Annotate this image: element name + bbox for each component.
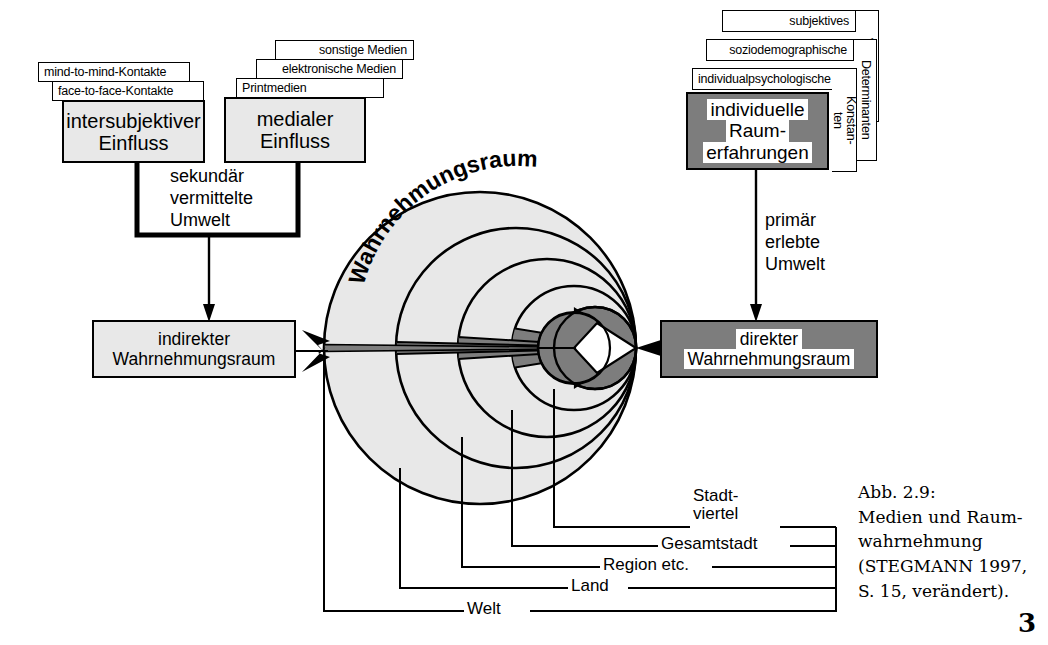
figure-caption: Abb. 2.9: Medien und Raum- wahrnehmung (… [858, 480, 1043, 603]
bracket-label-stadtviertel: Stadt- viertel [690, 487, 741, 524]
bracket-label-welt: Welt [464, 600, 504, 619]
label-sekundaer-vermittelte-umwelt: sekundär vermittelte Umwelt [170, 166, 295, 232]
flow-line-1: sekundär [170, 166, 295, 188]
box-direkter-wahrnehmungsraum[interactable]: direkter Wahrnehmungsraum [660, 320, 878, 378]
bracket-label-text: Gesamtstadt [661, 534, 757, 553]
bracket-label-text: Welt [467, 599, 501, 618]
stack-card-label: mind-to-mind-Kontakte [44, 65, 166, 79]
flow-line-2: erlebte [765, 232, 875, 254]
flow-line-1: primär [765, 210, 875, 232]
box-line-2: Wahrnehmungsraum [113, 349, 276, 369]
flow-line-3: Umwelt [170, 210, 295, 232]
box-line-1: individuelle [707, 99, 807, 120]
stack-card-label: elektronische Medien [282, 62, 396, 76]
stack-card-elektronische-medien[interactable]: elektronische Medien [256, 59, 403, 79]
caption-line-3: wahrnehmung [858, 529, 1043, 554]
bracket-label-text: Region etc. [603, 555, 689, 574]
bracket-label-land: Land [568, 577, 612, 596]
page-number: 3 [1018, 608, 1036, 638]
box-line-1: direkter [736, 329, 802, 349]
box-line-1: intersubjektiver [66, 110, 201, 132]
bracket-label-gesamtstadt: Gesamtstadt [658, 535, 760, 554]
label-primaer-erlebte-umwelt: primär erlebte Umwelt [765, 210, 875, 276]
bracket-label-text: Land [571, 576, 609, 595]
stack-card-soziodemographische[interactable]: soziodemographische [706, 39, 854, 61]
bracket-welt [324, 352, 465, 611]
bracket-stadtviertel [554, 389, 690, 527]
stack-card-label: sonstige Medien [319, 43, 407, 57]
flow-line-2: vermittelte [170, 188, 295, 210]
stack-card-sonstige-medien[interactable]: sonstige Medien [275, 40, 414, 60]
bracket-gesamtstadt [512, 410, 660, 546]
box-medialer-einfluss[interactable]: medialer Einfluss [224, 97, 366, 163]
caption-line-4: (STEGMANN 1997, [858, 554, 1043, 579]
stack-card-label: soziodemographische [729, 43, 847, 57]
flow-line-3: Umwelt [765, 254, 875, 276]
caption-line-2: Medien und Raum- [858, 505, 1043, 530]
bracket-label-region: Region etc. [600, 556, 692, 575]
bracket-region [462, 437, 600, 567]
stack-card-printmedien[interactable]: Printmedien [236, 78, 384, 98]
stack-card-label: subjektives [789, 14, 849, 28]
box-individuelle-raumerfahrungen[interactable]: individuelle Raum- erfahrungen [686, 92, 829, 170]
stack-card-label: Printmedien [242, 81, 307, 95]
stack-card-label: individualpsychologische [698, 72, 831, 86]
side-label-text: Konstan- ten [831, 96, 857, 144]
side-label-text: Determinanten [858, 60, 871, 139]
stack-card-mind-to-mind[interactable]: mind-to-mind-Kontakte [38, 62, 190, 82]
box-line-1: medialer [257, 108, 334, 130]
bracket-land [400, 468, 570, 588]
bracket-label-line-1: Stadt- [693, 487, 738, 505]
bracket-label-line-2: viertel [693, 505, 738, 523]
box-indirekter-wahrnehmungsraum[interactable]: indirekter Wahrnehmungsraum [92, 320, 296, 378]
stack-card-face-to-face[interactable]: face-to-face-Kontakte [52, 81, 204, 101]
box-line-2: Wahrnehmungsraum [684, 349, 855, 369]
caption-line-1: Abb. 2.9: [858, 480, 1043, 505]
stack-card-individualpsychologische[interactable]: individualpsychologische [692, 68, 848, 90]
stack-side-label-konstanten: Konstan- ten [832, 68, 857, 172]
page-number-text: 3 [1018, 608, 1036, 638]
stack-card-subjektives[interactable]: subjektives [722, 10, 856, 32]
stack-card-label: face-to-face-Kontakte [58, 84, 173, 98]
box-intersubjektiver-einfluss[interactable]: intersubjektiver Einfluss [62, 100, 205, 163]
figure-canvas: Wahrnehmungsraum [0, 0, 1048, 645]
box-line-2: Raum- [726, 120, 789, 141]
box-line-1: indirekter [158, 329, 230, 349]
box-line-2: Einfluss [260, 130, 330, 152]
box-line-2: Einfluss [98, 132, 168, 154]
caption-line-5: S. 15, verändert). [858, 579, 1043, 604]
box-line-3: erfahrungen [703, 142, 811, 163]
